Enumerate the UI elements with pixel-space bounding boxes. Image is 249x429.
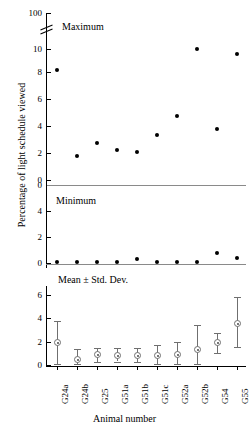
bottom-tick-2: [47, 342, 51, 343]
error-bar-cap-upper-G51c: [154, 345, 161, 346]
x-label-G51b: G51b: [141, 384, 150, 404]
mid-data-point-G54: [215, 251, 219, 255]
top-tick-label-2: 2: [18, 149, 42, 158]
top-panel-baseline: [46, 185, 246, 186]
x-tick-G24b: [77, 366, 78, 370]
x-label-G51a: G51a: [121, 385, 130, 405]
mean-marker-G51c: [154, 352, 161, 359]
bottom-tick-6: [47, 295, 51, 296]
error-bar-cap-lower-G55: [234, 347, 241, 348]
mid-panel-baseline: [46, 264, 246, 265]
top-data-point-G51a: [115, 148, 119, 152]
x-tick-G52b: [197, 366, 198, 370]
figure-scatter-light-schedule: Percentage of light schedule viewed Anim…: [0, 0, 249, 429]
x-label-G54: G54: [221, 389, 230, 405]
top-tick-label-4: 4: [18, 122, 42, 131]
mid-data-point-G52a: [175, 260, 179, 264]
error-bar-line-G52b: [197, 325, 198, 365]
x-tick-G25: [97, 366, 98, 370]
mean-marker-G24b: [74, 356, 81, 363]
mean-marker-G51a: [114, 352, 121, 359]
x-tick-G51c: [157, 366, 158, 370]
mid-data-point-G51b: [135, 257, 139, 261]
error-bar-cap-upper-G24b: [74, 349, 81, 350]
top-data-point-G51b: [135, 150, 139, 154]
error-bar-cap-upper-G51b: [134, 348, 141, 349]
top-data-point-G24b: [75, 154, 79, 158]
error-bar-cap-upper-G24a: [54, 321, 61, 322]
x-label-G51c: G51c: [161, 385, 170, 405]
x-tick-G24a: [57, 366, 58, 370]
mid-tick-label-0-bottom: 0: [18, 259, 42, 268]
top-data-point-G55: [235, 52, 239, 56]
bottom-tick-4: [47, 318, 51, 319]
x-label-G52b: G52b: [201, 384, 210, 404]
top-tick-10: [47, 49, 51, 50]
top-tick-4: [47, 126, 51, 127]
error-bar-cap-upper-G25: [94, 348, 101, 349]
top-data-point-G25: [95, 141, 99, 145]
x-axis-line: [46, 366, 246, 367]
mid-data-point-G51c: [155, 260, 159, 264]
x-label-G24b: G24b: [81, 384, 90, 404]
x-tick-G52a: [177, 366, 178, 370]
top-tick-100: [47, 13, 51, 14]
mean-marker-G25: [94, 351, 101, 358]
top-tick-8: [47, 72, 51, 73]
top-tick-2: [47, 153, 51, 154]
error-bar-cap-upper-G54: [214, 333, 221, 334]
mean-marker-G54: [214, 339, 221, 346]
annotation-maximum: Maximum: [62, 22, 104, 32]
mean-marker-G55: [234, 320, 241, 327]
top-tick-label-8: 8: [18, 68, 42, 77]
mid-data-point-G24a: [55, 260, 59, 264]
error-bar-cap-lower-G25: [94, 362, 101, 363]
error-bar-cap-upper-G55: [234, 297, 241, 298]
bottom-panel-y-axis: [46, 286, 47, 366]
mid-tick-2: [47, 237, 51, 238]
x-label-G25: G25: [101, 389, 110, 405]
mid-tick-label-0-top: 0: [18, 181, 42, 190]
bottom-tick-label-2: 2: [18, 338, 42, 347]
top-data-point-G52b: [195, 47, 199, 51]
mean-marker-G52b: [194, 346, 201, 353]
top-tick-label-6: 6: [18, 95, 42, 104]
top-tick-0: [47, 180, 51, 181]
error-bar-cap-upper-G52b: [194, 325, 201, 326]
error-bar-cap-upper-G52a: [174, 342, 181, 343]
top-tick-6: [47, 99, 51, 100]
annotation-minimum: Minimum: [56, 196, 96, 206]
x-tick-G51b: [137, 366, 138, 370]
mid-data-point-G55: [235, 256, 239, 260]
bottom-tick-label-6: 6: [18, 291, 42, 300]
x-label-G52a: G52a: [181, 385, 190, 405]
x-axis-title: Animal number: [0, 414, 249, 424]
mid-tick-4: [47, 211, 51, 212]
error-bar-cap-lower-G51a: [114, 362, 121, 363]
mean-marker-G52a: [174, 351, 181, 358]
annotation-mean-std: Mean ± Std. Dev.: [58, 275, 128, 285]
mid-data-point-G51a: [115, 260, 119, 264]
mid-tick-label-2: 2: [18, 233, 42, 242]
top-data-point-G24a: [55, 68, 59, 72]
error-bar-cap-lower-G54: [214, 353, 221, 354]
x-label-G24a: G24a: [61, 385, 70, 405]
x-tick-G54: [217, 366, 218, 370]
x-tick-G55: [237, 366, 238, 370]
bottom-tick-label-0: 0: [18, 361, 42, 370]
mid-data-point-G25: [95, 260, 99, 264]
bottom-tick-label-4: 4: [18, 314, 42, 323]
mid-panel-y-axis: [46, 185, 47, 268]
mid-tick-label-4: 4: [18, 207, 42, 216]
top-data-point-G54: [215, 127, 219, 131]
top-data-point-G52a: [175, 114, 179, 118]
mid-data-point-G52b: [195, 260, 199, 264]
top-tick-label-10: 10: [18, 45, 42, 54]
x-tick-G51a: [117, 366, 118, 370]
error-bar-cap-lower-G51b: [134, 362, 141, 363]
mid-data-point-G24b: [75, 260, 79, 264]
x-label-G55: G55: [241, 389, 249, 405]
mean-marker-G24a: [54, 339, 61, 346]
mean-marker-G51b: [134, 352, 141, 359]
top-data-point-G51c: [155, 133, 159, 137]
